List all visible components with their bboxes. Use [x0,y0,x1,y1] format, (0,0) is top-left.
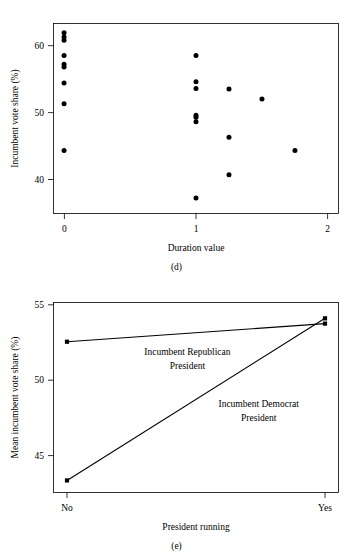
y-tick-label-55: 55 [35,300,45,310]
scatter-point [194,79,199,84]
panel-label-d: (d) [171,262,182,273]
annotation-democrat-line1: Incumbent Democrat [218,399,299,409]
series-marker [323,322,327,326]
scatter-point [194,53,199,58]
scatter-point [226,87,231,92]
scatter-point [194,86,199,91]
scatter-point [62,101,67,106]
y-axis-title-e: Mean incumbent vote share (%) [10,337,21,459]
scatter-point [226,135,231,140]
scatter-points-group-d [62,30,298,200]
scatter-point [62,53,67,58]
scatter-point [62,38,67,43]
annotation-republican-line2: President [170,361,206,371]
scatter-point [194,115,199,120]
y-tick-label-40: 40 [35,175,45,185]
annotation-democrat: Incumbent Democrat President [218,399,299,423]
annotation-republican: Incumbent Republican President [144,347,231,371]
x-axis-title-e: President running [162,522,230,532]
series-marker [65,478,69,482]
scatter-point [62,81,67,86]
y-tick-label-60: 60 [35,41,45,51]
x-tick-label-no: No [61,503,73,513]
series-marker [65,340,69,344]
x-axis-title-d: Duration value [168,243,225,253]
x-tick-label-yes: Yes [318,503,332,513]
plot-frame-e [54,303,339,493]
scatter-point [226,172,231,177]
annotation-republican-line1: Incumbent Republican [144,347,231,357]
figure-d-scatter-panel: 40 50 60 0 1 2 Duration value Incumbent … [0,0,353,280]
y-tick-label-50: 50 [35,108,45,118]
scatter-point [194,119,199,124]
panel-label-e: (e) [171,541,182,552]
y-axis-ticks-e [48,305,54,456]
x-tick-label-2: 2 [325,224,330,234]
scatter-point [62,64,67,69]
scatter-point [259,97,264,102]
annotation-democrat-line2: President [241,413,277,423]
line-plot-president-running: 45 50 55 No Yes President running Mean i… [0,280,353,559]
x-axis-ticks-d [64,214,327,220]
series-marker [323,316,327,320]
y-tick-label-50: 50 [35,375,45,385]
series-line [67,324,325,342]
scatter-point [194,196,199,201]
figure-e-line-panel: 45 50 55 No Yes President running Mean i… [0,280,353,559]
y-tick-label-45: 45 [35,451,45,461]
x-axis-ticks-e [67,493,325,499]
y-axis-ticks-d [48,46,54,180]
x-tick-label-1: 1 [194,224,199,234]
scatter-point [62,148,67,153]
scatter-point [292,148,297,153]
scatter-plot-duration-vs-voteshare: 40 50 60 0 1 2 Duration value Incumbent … [0,0,353,280]
x-tick-label-0: 0 [62,224,67,234]
y-axis-title-d: Incumbent vote share (%) [10,69,21,167]
